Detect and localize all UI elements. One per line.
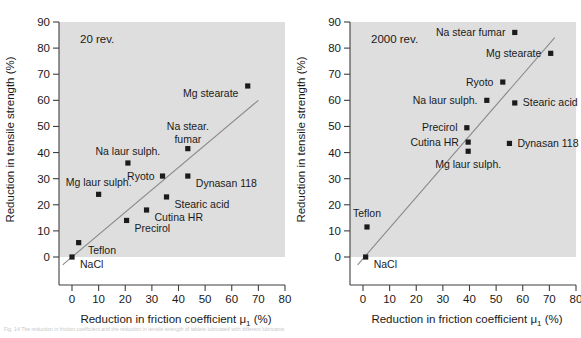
y-axis-tick-label: 40 <box>37 147 50 159</box>
figure-container: 01020304050607080900102030405060708020 r… <box>0 0 581 338</box>
y-axis-tick-label: 80 <box>328 42 341 54</box>
x-axis-tick-label: 10 <box>383 293 396 305</box>
data-point-label: Mg stearate <box>486 47 542 59</box>
x-axis-tick-label: 80 <box>570 293 581 305</box>
data-point <box>125 160 130 165</box>
scatter-plot-20-rev: 01020304050607080900102030405060708020 r… <box>0 0 290 318</box>
x-axis-tick-label: 70 <box>252 293 265 305</box>
y-axis-tick-label: 50 <box>37 120 50 132</box>
data-point-label: Na stear. <box>167 120 209 132</box>
y-axis-tick-label: 20 <box>328 199 341 211</box>
data-point-label: NaCl <box>80 258 103 270</box>
data-point <box>466 140 471 145</box>
x-axis-tick-label: 20 <box>119 293 132 305</box>
x-axis-tick-label: 30 <box>145 293 158 305</box>
x-axis-tick-label: 80 <box>279 293 292 305</box>
data-point-label: fumar <box>174 133 201 145</box>
x-axis-tick-label: 10 <box>92 293 105 305</box>
data-point-label: Cutina HR <box>410 136 459 148</box>
data-point-label: Mg laur sulph. <box>435 158 501 170</box>
panel-annotation: 20 rev. <box>80 33 114 45</box>
x-axis-tick-label: 40 <box>463 293 476 305</box>
y-axis-tick-label: 70 <box>37 68 50 80</box>
data-point-label: Dynasan 118 <box>517 137 578 149</box>
data-point-label: Stearic acid <box>175 198 230 210</box>
data-point-label: Dynasan 118 <box>196 177 257 189</box>
data-point <box>548 51 553 56</box>
y-axis-title: Reduction in tensile strength (%) <box>295 56 307 222</box>
y-axis-tick-label: 40 <box>328 147 341 159</box>
data-point <box>160 173 165 178</box>
data-point-label: Ryoto <box>466 76 494 88</box>
figure-caption: Fig. 14 The reduction in friction coeffi… <box>4 326 578 332</box>
x-axis-tick-label: 40 <box>172 293 185 305</box>
data-point <box>364 224 369 229</box>
data-point-label: Mg stearate <box>183 87 239 99</box>
y-axis-tick-label: 30 <box>37 173 50 185</box>
data-point <box>124 218 129 223</box>
y-axis-tick-label: 90 <box>328 16 341 28</box>
data-point-label: Stearic acid <box>523 96 578 108</box>
y-axis-tick-label: 60 <box>328 94 341 106</box>
x-axis-tick-label: 20 <box>410 293 423 305</box>
data-point-label: Ryoto <box>127 170 155 182</box>
data-point-label: Cutina HR <box>155 211 204 223</box>
y-axis-tick-label: 80 <box>37 42 50 54</box>
data-point <box>164 194 169 199</box>
y-axis-tick-label: 70 <box>328 68 341 80</box>
data-point <box>185 146 190 151</box>
data-point-label: Teflon <box>88 244 116 256</box>
x-axis-tick-label: 0 <box>69 293 75 305</box>
data-point <box>69 254 74 259</box>
x-axis-tick-label: 0 <box>360 293 366 305</box>
x-axis-tick-label: 60 <box>516 293 529 305</box>
data-point <box>512 100 517 105</box>
panel-annotation: 2000 rev. <box>371 33 418 45</box>
data-point <box>500 79 505 84</box>
data-point-label: Precirol <box>135 222 171 234</box>
data-point <box>185 173 190 178</box>
data-point <box>512 30 517 35</box>
data-point <box>245 83 250 88</box>
y-axis-title: Reduction in tensile strength (%) <box>4 56 16 222</box>
x-axis-tick-label: 30 <box>436 293 449 305</box>
data-point-label: Teflon <box>353 207 381 219</box>
y-axis-tick-label: 0 <box>44 251 50 263</box>
data-point <box>96 192 101 197</box>
data-point-label: Precirol <box>422 121 458 133</box>
data-point-label: Na laur sulph. <box>96 145 161 157</box>
y-axis-tick-label: 50 <box>328 120 341 132</box>
x-axis-tick-label: 70 <box>543 293 556 305</box>
data-point-label: NaCl <box>374 258 397 270</box>
data-point-label: Mg laur sulph. <box>66 176 132 188</box>
data-point <box>464 125 469 130</box>
data-point-label: Na laur sulph. <box>413 94 478 106</box>
y-axis-tick-label: 10 <box>328 225 341 237</box>
chart-panel-20-rev: 01020304050607080900102030405060708020 r… <box>0 0 290 318</box>
y-axis-tick-label: 20 <box>37 199 50 211</box>
y-axis-tick-label: 0 <box>335 251 341 263</box>
scatter-plot-2000-rev: 0102030405060708090010203040506070802000… <box>291 0 581 318</box>
y-axis-tick-label: 90 <box>37 16 50 28</box>
data-point <box>76 240 81 245</box>
data-point <box>507 141 512 146</box>
data-point <box>363 254 368 259</box>
y-axis-tick-label: 60 <box>37 94 50 106</box>
data-point <box>466 149 471 154</box>
chart-panel-2000-rev: 0102030405060708090010203040506070802000… <box>291 0 581 318</box>
y-axis-tick-label: 10 <box>37 225 50 237</box>
data-point <box>484 98 489 103</box>
data-point-label: Na stear fumar <box>436 26 506 38</box>
x-axis-tick-label: 60 <box>225 293 238 305</box>
x-axis-tick-label: 50 <box>490 293 503 305</box>
x-axis-tick-label: 50 <box>199 293 212 305</box>
y-axis-tick-label: 30 <box>328 173 341 185</box>
data-point <box>144 207 149 212</box>
